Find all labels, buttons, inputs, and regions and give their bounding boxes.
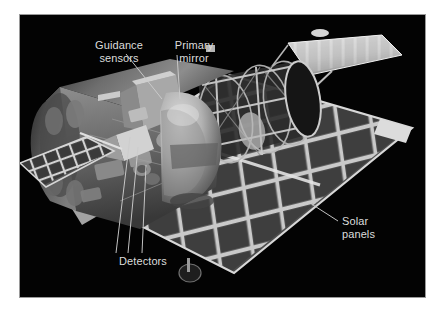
image-plate: Guidance sensors Primary mirror Detector…	[20, 15, 425, 297]
figure-root: Guidance sensors Primary mirror Detector…	[0, 0, 442, 310]
spacecraft-illustration	[20, 15, 425, 297]
low-gain-antenna-lower	[179, 258, 201, 282]
mast-box	[206, 45, 215, 52]
